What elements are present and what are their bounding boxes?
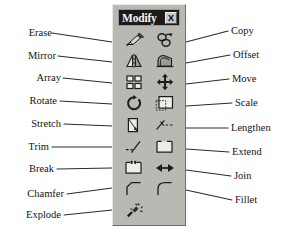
tool-button-offset[interactable] [149,50,180,71]
callout-label-rotate: Rotate [0,95,57,106]
trim-icon [124,139,144,155]
stretch-icon [125,117,142,134]
tool-button-stretch[interactable] [118,115,149,136]
tool-button-copy[interactable] [149,29,180,50]
leader-explode [64,210,112,215]
tool-button-break[interactable] [118,157,149,178]
leader-break [57,168,112,169]
callout-label-scale: Scale [235,97,258,108]
callout-label-array: Array [0,72,61,83]
callout-label-offset: Offset [233,49,259,60]
tool-row [118,50,180,71]
callout-label-copy: Copy [231,25,254,36]
callout-label-trim: Trim [0,141,49,152]
modify-toolbar-palette[interactable]: Modify X [112,4,186,226]
tool-row [118,136,180,157]
scale-icon [155,95,174,112]
leader-scale [186,103,232,106]
rotate-icon [125,95,143,112]
palette-titlebar[interactable]: Modify X [118,9,180,26]
explode-icon [124,202,144,219]
diagram-canvas: Erase Mirror Array Rotate Stretch Trim B… [0,0,293,246]
tool-row [118,179,180,200]
tool-button-mirror[interactable] [118,50,149,71]
fillet-icon [156,181,174,197]
callout-label-stretch: Stretch [0,118,61,129]
leader-rotate [60,101,112,104]
copy-icon [155,32,175,48]
move-icon [156,73,174,91]
callout-label-explode: Explode [0,209,61,220]
leader-extend [186,149,229,152]
leader-mirror [58,56,112,62]
array-icon [125,74,143,90]
callout-label-lengthen: Lengthen [231,122,271,133]
tool-button-scale[interactable] [149,93,180,114]
tool-row [118,29,180,50]
tool-grid [118,29,180,222]
chamfer-icon [125,181,143,197]
tool-row [118,93,180,114]
mirror-icon [124,53,144,69]
tool-row [118,200,180,221]
tool-row [118,115,180,136]
callout-label-chamfer: Chamfer [0,188,64,199]
callout-label-move: Move [232,73,257,84]
tool-button-array[interactable] [118,72,149,93]
palette-title: Modify [119,12,157,24]
leader-chamfer [67,188,112,194]
leader-stretch [64,124,112,126]
callout-label-fillet: Fillet [235,194,257,205]
tool-button-erase[interactable] [118,29,149,50]
leader-move [186,79,229,84]
tool-row [118,72,180,93]
offset-icon [155,53,175,69]
tool-button-move[interactable] [149,72,180,93]
callout-label-extend: Extend [232,146,262,157]
callout-label-join: Join [234,170,252,181]
leader-fillet [186,190,232,200]
leader-erase [52,33,112,42]
leader-copy [186,31,228,42]
tool-button-explode[interactable] [118,200,149,221]
tool-button-fillet[interactable] [149,179,180,200]
callout-label-erase: Erase [0,27,52,38]
tool-button-chamfer[interactable] [118,179,149,200]
leader-array [63,78,112,83]
callout-label-mirror: Mirror [0,50,56,61]
break-icon [124,160,143,176]
join-icon [155,162,175,174]
leader-offset [186,55,230,63]
tool-button-lengthen[interactable] [149,115,180,136]
close-icon[interactable]: X [165,12,177,24]
tool-row [118,157,180,178]
leader-join [186,170,231,176]
extend-icon [155,139,174,155]
erase-icon [124,32,144,47]
tool-button-extend[interactable] [149,136,180,157]
tool-button-rotate[interactable] [118,93,149,114]
lengthen-icon [155,117,175,133]
tool-button-join[interactable] [149,157,180,178]
callout-label-break: Break [0,163,54,174]
tool-button-trim[interactable] [118,136,149,157]
